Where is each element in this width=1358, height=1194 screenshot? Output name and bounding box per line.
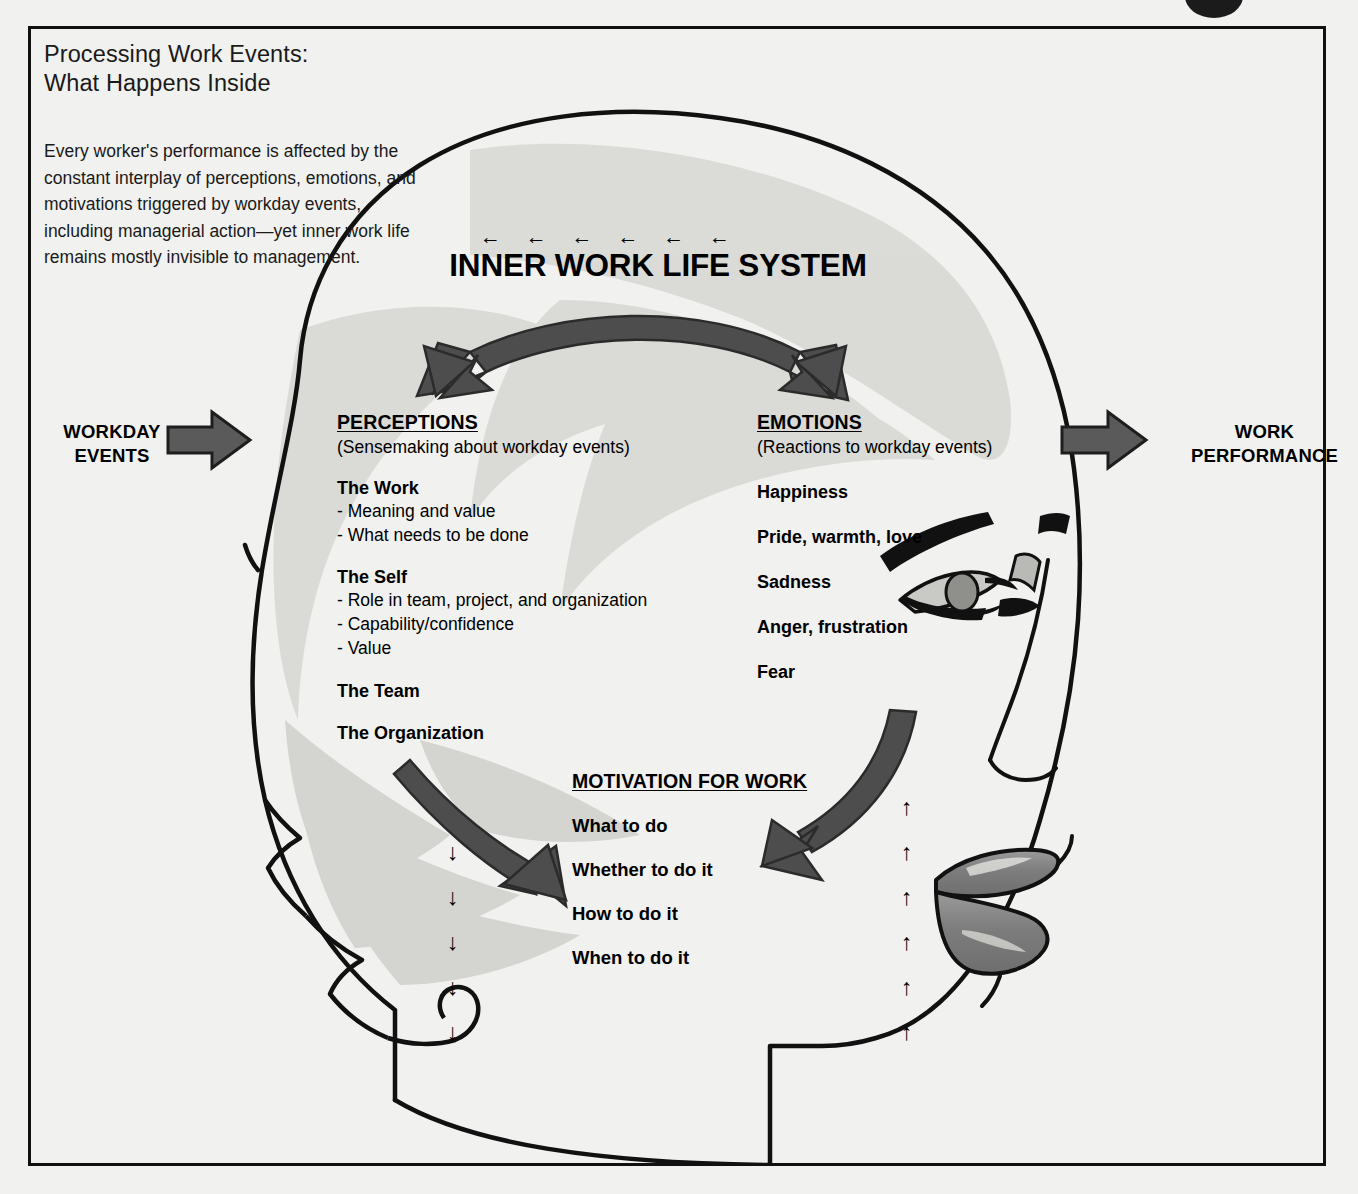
perceptions-group-list: The Work- Meaning and value- What needs … — [337, 478, 737, 744]
page-description: Every worker's performance is affected b… — [44, 138, 424, 271]
emotions-heading: EMOTIONS — [757, 411, 862, 434]
inflow-arrow-icon: ← — [663, 226, 684, 247]
work-performance-label: WORK PERFORMANCE — [1182, 420, 1347, 468]
motivation-item: What to do — [572, 815, 872, 837]
perceptions-bullet: - Capability/confidence — [337, 612, 737, 636]
up-arrow-column: ↑↑↑↑↑↑ — [901, 785, 913, 1055]
down-arrow-icon: ↓ — [447, 965, 459, 1010]
up-arrow-icon: ↑ — [901, 1010, 913, 1055]
emotions-item: Anger, frustration — [757, 617, 1067, 638]
perceptions-bullet: - Meaning and value — [337, 499, 737, 523]
up-arrow-icon: ↑ — [901, 785, 913, 830]
inflow-arrow-icon: ← — [526, 226, 547, 247]
perceptions-bullet: - What needs to be done — [337, 523, 737, 547]
down-arrow-icon: ↓ — [447, 830, 459, 875]
perceptions-group-label: The Team — [337, 681, 737, 702]
inflow-arrow-icon: ← — [480, 226, 501, 247]
page-corner-mark-icon — [1185, 0, 1243, 18]
motivation-item: When to do it — [572, 947, 872, 969]
up-arrow-icon: ↑ — [901, 965, 913, 1010]
down-arrow-icon: ↓ — [447, 1010, 459, 1055]
workday-events-line1: WORKDAY — [42, 420, 182, 444]
inflow-arrow-row: ←←←←←← — [480, 228, 730, 244]
emotions-subtitle: (Reactions to workday events) — [757, 437, 1067, 458]
page-canvas: Processing Work Events: What Happens Ins… — [0, 0, 1358, 1194]
perceptions-bullet: - Value — [337, 636, 737, 660]
work-performance-line1: WORK — [1182, 420, 1347, 444]
motivation-heading: MOTIVATION FOR WORK — [572, 770, 807, 793]
up-arrow-icon: ↑ — [901, 875, 913, 920]
page-title-line1: Processing Work Events: — [44, 40, 474, 69]
work-performance-line2: PERFORMANCE — [1182, 444, 1347, 468]
workday-events-line2: EVENTS — [42, 444, 182, 468]
system-title: INNER WORK LIFE SYSTEM — [398, 247, 918, 284]
emotions-item: Sadness — [757, 572, 1067, 593]
perceptions-heading: PERCEPTIONS — [337, 411, 478, 434]
emotions-item-list: HappinessPride, warmth, loveSadnessAnger… — [757, 482, 1067, 683]
down-arrow-icon: ↓ — [447, 920, 459, 965]
emotions-item: Pride, warmth, love — [757, 527, 1067, 548]
inflow-arrow-icon: ← — [617, 226, 638, 247]
inflow-arrow-icon: ← — [709, 226, 730, 247]
emotions-item: Fear — [757, 662, 1067, 683]
motivation-item-list: What to doWhether to do itHow to do itWh… — [572, 815, 872, 969]
perceptions-group-label: The Organization — [337, 723, 737, 744]
down-arrow-icon: ↓ — [447, 875, 459, 920]
workday-events-label: WORKDAY EVENTS — [42, 420, 182, 468]
page-title-line2: What Happens Inside — [44, 69, 474, 98]
motivation-item: Whether to do it — [572, 859, 872, 881]
motivation-section: MOTIVATION FOR WORK What to doWhether to… — [572, 770, 872, 969]
emotions-item: Happiness — [757, 482, 1067, 503]
emotions-section: EMOTIONS (Reactions to workday events) H… — [757, 411, 1067, 683]
inflow-arrow-icon: ← — [572, 226, 593, 247]
perceptions-group-label: The Work — [337, 478, 737, 499]
perceptions-section: PERCEPTIONS (Sensemaking about workday e… — [337, 411, 737, 744]
down-arrow-column: ↓↓↓↓↓ — [447, 830, 459, 1055]
page-title: Processing Work Events: What Happens Ins… — [44, 40, 474, 98]
up-arrow-icon: ↑ — [901, 920, 913, 965]
perceptions-subtitle: (Sensemaking about workday events) — [337, 437, 737, 458]
motivation-item: How to do it — [572, 903, 872, 925]
perceptions-bullet: - Role in team, project, and organizatio… — [337, 588, 737, 612]
up-arrow-icon: ↑ — [901, 830, 913, 875]
perceptions-group-label: The Self — [337, 567, 737, 588]
